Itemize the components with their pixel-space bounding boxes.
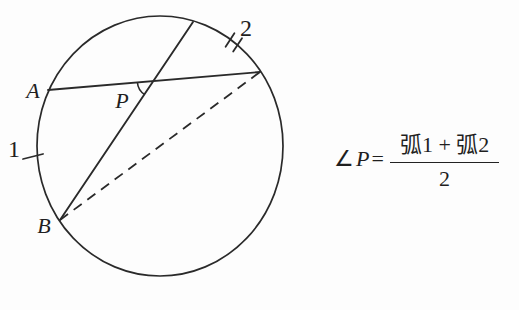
- arc2-tick-1: [226, 33, 235, 46]
- formula-fraction: 弧1 + 弧2 2: [390, 126, 499, 192]
- dashed-chord-b-right: [60, 72, 260, 220]
- formula-numerator: 弧1 + 弧2: [390, 126, 499, 163]
- label-arc-2: 2: [240, 15, 252, 41]
- formula-variable: P: [355, 146, 371, 171]
- angle-formula: ∠P= 弧1 + 弧2 2: [334, 126, 499, 192]
- geometry-figure: A B P 1 2 ∠P= 弧1 + 弧2 2: [0, 0, 519, 310]
- label-arc-1: 1: [8, 136, 20, 162]
- formula-denominator: 2: [439, 163, 450, 192]
- angle-arc-p: [137, 83, 144, 95]
- equals-sign: =: [371, 146, 384, 171]
- label-vertex-p: P: [114, 88, 128, 113]
- label-point-b: B: [37, 213, 50, 238]
- arc1-tick: [23, 154, 43, 159]
- chord-b-top: [60, 22, 193, 220]
- angle-symbol: ∠: [334, 146, 355, 171]
- label-point-a: A: [24, 78, 40, 103]
- formula-lhs: ∠P=: [334, 146, 385, 172]
